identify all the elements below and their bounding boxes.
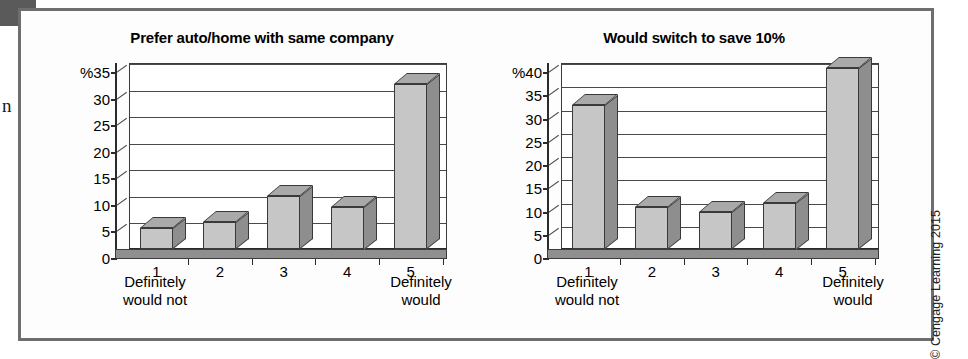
- bar: [826, 68, 859, 249]
- bar-side-face: [427, 74, 440, 249]
- bar-side-face: [859, 57, 872, 249]
- bar-front-face: [267, 196, 300, 249]
- y-tick-label: 25: [93, 117, 110, 134]
- y-axis-left: 051015202530%35: [115, 63, 117, 249]
- y-axis-right: 05101520253035%40: [547, 63, 549, 249]
- y-tick-label: 5: [102, 224, 110, 241]
- bar-front-face: [826, 68, 859, 249]
- plot-floor-left: [115, 249, 447, 259]
- x-tick-mark: [188, 259, 189, 265]
- chart-title-left: Prefer auto/home with same company: [47, 29, 477, 46]
- y-tick-label: 20: [525, 157, 542, 174]
- y-tick-mark: [543, 188, 549, 190]
- plot-side-wall-left: [115, 63, 129, 249]
- anchor-high-line2-left: would: [365, 291, 477, 309]
- y-tick-mark: [111, 205, 117, 207]
- bar: [394, 84, 427, 249]
- y-tick-label: %35: [80, 64, 110, 81]
- y-tick-mark: [111, 231, 117, 233]
- anchor-label-low-left: Definitely would not: [99, 273, 211, 310]
- bar: [267, 196, 300, 249]
- x-tick-mark: [811, 259, 812, 265]
- bar-side-face: [605, 95, 618, 249]
- bar-front-face: [331, 207, 364, 250]
- x-tick-mark: [252, 259, 253, 265]
- cut-off-body-text: n: [2, 95, 12, 117]
- anchor-low-line2-right: would not: [531, 291, 643, 309]
- y-tick-label: 0: [102, 250, 110, 267]
- y-tick-mark: [111, 152, 117, 154]
- bar-side-face: [300, 186, 313, 249]
- y-tick-label: 35: [525, 87, 542, 104]
- bar: [140, 228, 173, 249]
- y-tick-label: 5: [534, 227, 542, 244]
- y-tick-label: 10: [93, 197, 110, 214]
- bar-front-face: [203, 222, 236, 249]
- y-tick-mark: [543, 235, 549, 237]
- bar-front-face: [394, 84, 427, 249]
- plot-area-left: 051015202530%35 12345: [115, 63, 447, 259]
- y-tick-label: 0: [534, 250, 542, 267]
- x-tick-mark: [684, 259, 685, 265]
- copyright-notice: © Cengage Learning 2015: [929, 189, 943, 359]
- x-tick-label: 3: [711, 263, 719, 280]
- x-tick-mark: [379, 259, 380, 265]
- y-tick-mark: [543, 258, 549, 260]
- y-tick-mark: [111, 99, 117, 101]
- bar: [331, 207, 364, 250]
- bar-front-face: [763, 203, 796, 250]
- y-tick-mark: [543, 119, 549, 121]
- y-tick-label: 15: [93, 170, 110, 187]
- bar: [635, 207, 668, 249]
- anchor-high-line1-right: Definitely: [797, 273, 909, 291]
- y-tick-label: 25: [525, 134, 542, 151]
- bar: [203, 222, 236, 249]
- x-tick-label: 2: [216, 263, 224, 280]
- x-tick-label: 2: [648, 263, 656, 280]
- bar-front-face: [699, 212, 732, 249]
- chart-title-right: Would switch to save 10%: [479, 29, 909, 46]
- chart-panel-right: Would switch to save 10% 05101520253035%…: [479, 23, 909, 338]
- bar: [572, 105, 605, 249]
- chart-panel-left: Prefer auto/home with same company 05101…: [47, 23, 477, 338]
- anchor-low-line2-left: would not: [99, 291, 211, 309]
- y-tick-label: 20: [93, 144, 110, 161]
- anchor-high-line1-left: Definitely: [365, 273, 477, 291]
- bar-front-face: [572, 105, 605, 249]
- x-tick-mark: [875, 259, 876, 265]
- y-tick-label: 15: [525, 180, 542, 197]
- y-tick-mark: [543, 95, 549, 97]
- plot-floor-right: [547, 249, 879, 259]
- x-tick-mark: [443, 259, 444, 265]
- bar: [699, 212, 732, 249]
- bar-side-face: [364, 196, 377, 249]
- y-tick-label: 30: [93, 91, 110, 108]
- anchor-low-line1-left: Definitely: [99, 273, 211, 291]
- bar-front-face: [635, 207, 668, 249]
- x-tick-label: 4: [775, 263, 783, 280]
- anchor-low-line1-right: Definitely: [531, 273, 643, 291]
- x-tick-mark: [620, 259, 621, 265]
- y-tick-label: 30: [525, 111, 542, 128]
- anchor-label-low-right: Definitely would not: [531, 273, 643, 310]
- y-tick-mark: [111, 125, 117, 127]
- plot-side-wall-right: [547, 63, 561, 249]
- y-tick-mark: [111, 72, 117, 74]
- x-tick-label: 4: [343, 263, 351, 280]
- bar: [763, 203, 796, 250]
- bar-side-face: [796, 192, 809, 249]
- y-tick-mark: [543, 142, 549, 144]
- anchor-label-high-left: Definitely would: [365, 273, 477, 310]
- figure-frame: Prefer auto/home with same company 05101…: [18, 8, 934, 341]
- x-tick-mark: [747, 259, 748, 265]
- x-tick-mark: [315, 259, 316, 265]
- y-tick-label: %40: [512, 64, 542, 81]
- gridline: [130, 64, 446, 65]
- anchor-high-line2-right: would: [797, 291, 909, 309]
- y-tick-label: 10: [525, 204, 542, 221]
- y-tick-mark: [111, 258, 117, 260]
- x-tick-label: 3: [279, 263, 287, 280]
- anchor-label-high-right: Definitely would: [797, 273, 909, 310]
- bar-front-face: [140, 228, 173, 249]
